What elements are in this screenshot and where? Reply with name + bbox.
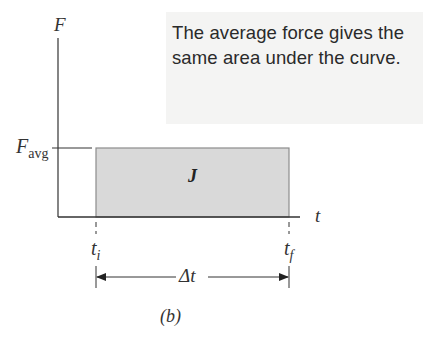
panel-label: (b): [160, 306, 181, 327]
t-initial-subscript: i: [97, 248, 101, 263]
t-final-subscript: f: [290, 248, 294, 263]
duration-label: Δt: [179, 265, 195, 287]
f-avg-label: Favg: [16, 135, 48, 162]
impulse-label: J: [188, 166, 197, 187]
plot-canvas: [0, 0, 423, 341]
t-initial-label: ti: [91, 237, 100, 264]
f-avg-main: F: [16, 135, 28, 157]
f-avg-subscript: avg: [28, 146, 48, 161]
impulse-diagram: The average force gives the same area un…: [0, 0, 423, 341]
t-final-label: tf: [284, 237, 293, 264]
y-axis-label: F: [54, 14, 66, 36]
x-axis-label: t: [315, 205, 320, 227]
